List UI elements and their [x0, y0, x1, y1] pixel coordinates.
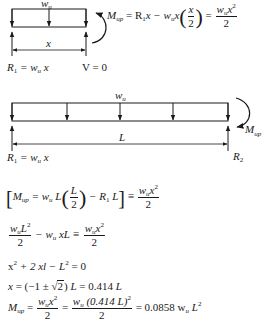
reaction-label-right: R2: [232, 150, 244, 164]
moment-label: Mup: [244, 123, 262, 138]
equation-expanded: wuL22 − wu xL ≡ wux22: [8, 223, 106, 248]
reaction-label-left: R1 = wu x: [6, 151, 49, 165]
equation-root: x = (−1 ± √2) L = 0.414 L: [8, 280, 122, 292]
equation-moment-balance: [Mup = wu L(L2) − R1 L] ≡ wux22: [6, 185, 160, 210]
free-body-diagram-full-span: wu L Mup R1 = wu x R2: [0, 0, 269, 170]
equation-max-moment: Mup = wux22 = wu (0.414 L)22 = 0.0858 wu…: [8, 296, 201, 321]
equation-quadratic: x2 + 2 xl − L2 = 0: [8, 261, 86, 272]
span-label: L: [118, 131, 125, 143]
load-label: wu: [115, 89, 126, 103]
